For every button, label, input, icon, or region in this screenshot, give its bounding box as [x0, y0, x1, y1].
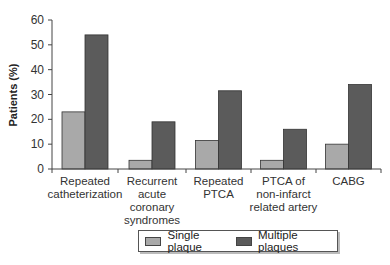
legend: Single plaque Multiple plaques — [138, 230, 338, 252]
y-axis: 0102030405060 — [31, 13, 52, 176]
y-tick-label: 10 — [31, 137, 45, 151]
bar-single-plaque — [62, 112, 85, 169]
bar-multiple-plaques — [219, 91, 242, 169]
y-tick-label: 0 — [37, 162, 44, 176]
bar-single-plaque — [196, 140, 219, 169]
bar-multiple-plaques — [85, 35, 108, 169]
legend-label-single-plaque: Single plaque — [167, 229, 223, 253]
x-category-label: Repeatedcatheterization — [48, 175, 123, 200]
x-axis: RepeatedcatheterizationRecurrentacutecor… — [48, 169, 381, 226]
y-tick-label: 50 — [31, 38, 45, 52]
legend-swatch-single-plaque — [145, 237, 161, 246]
bar-single-plaque — [326, 144, 349, 169]
legend-label-multiple-plaques: Multiple plaques — [258, 229, 325, 253]
y-tick-label: 30 — [31, 88, 45, 102]
y-tick-label: 20 — [31, 112, 45, 126]
bar-multiple-plaques — [152, 122, 175, 169]
bars — [62, 35, 372, 169]
legend-item-single-plaque: Single plaque — [145, 229, 224, 253]
bar-multiple-plaques — [349, 85, 372, 169]
x-category-label: Recurrentacutecoronarysyndromes — [124, 175, 180, 226]
bar-multiple-plaques — [284, 129, 307, 169]
bar-single-plaque — [129, 160, 152, 169]
y-axis-label: Patients (%) — [7, 63, 19, 126]
x-category-label: RepeatedPTCA — [194, 175, 244, 200]
x-category-label: CABG — [332, 175, 365, 187]
legend-swatch-multiple-plaques — [236, 237, 253, 246]
bar-single-plaque — [261, 160, 284, 169]
x-category-label: PTCA ofnon-infarctrelated artery — [250, 175, 318, 213]
bar-chart: 0102030405060 RepeatedcatheterizationRec… — [0, 0, 390, 265]
legend-item-multiple-plaques: Multiple plaques — [236, 229, 326, 253]
y-tick-label: 60 — [31, 13, 45, 27]
y-tick-label: 40 — [31, 63, 45, 77]
